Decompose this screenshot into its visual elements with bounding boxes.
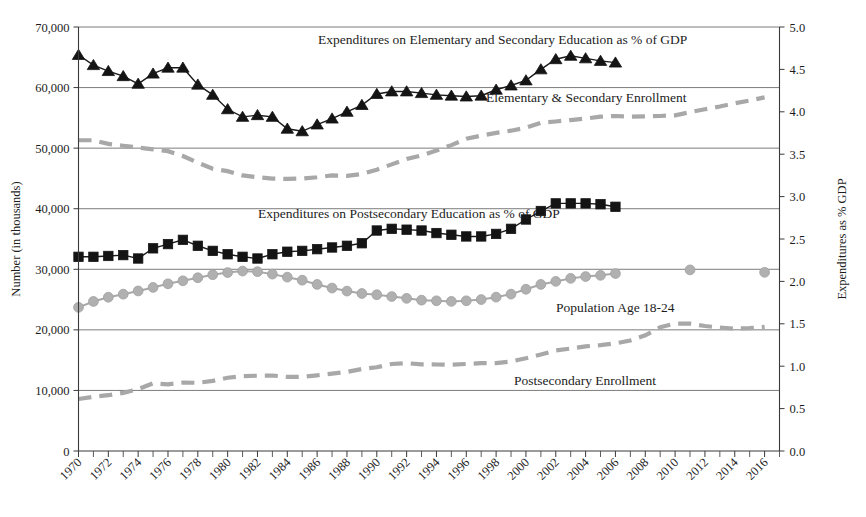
- series-0-pt-3-marker: [117, 70, 129, 80]
- series-2-pt-24-marker: [432, 228, 441, 237]
- y2-tick-label-4: 4.0: [790, 105, 806, 119]
- x-tick-label-2016: 2016: [743, 455, 771, 483]
- y-axis-tick-labels: 010,00020,00030,00040,00050,00060,00070,…: [35, 21, 69, 459]
- y2-tick-label-5: 5.0: [790, 21, 806, 35]
- series-3-pt-25-marker: [446, 296, 456, 306]
- x-tick-label-1992: 1992: [385, 455, 413, 483]
- series-2-pt-1-marker: [89, 252, 98, 261]
- series-3-pt-35-marker: [596, 270, 606, 280]
- chart-container: 1970197219741976197819801982198419861988…: [0, 0, 866, 517]
- series-3-pt-13-marker: [267, 269, 277, 279]
- x-tick-label-2002: 2002: [534, 455, 562, 483]
- x-tick-label-1972: 1972: [87, 455, 115, 483]
- x-tick-label-1976: 1976: [147, 455, 175, 483]
- y2-tick-label-0: 0.0: [790, 445, 806, 459]
- series-3-pt-16-marker: [312, 280, 322, 290]
- series-2-pt-21-marker: [387, 224, 396, 233]
- series-3-pt-17-marker: [327, 283, 337, 293]
- y-tick-label-40000: 40,000: [35, 202, 69, 216]
- series-2-pt-28-marker: [491, 229, 500, 238]
- series-3-pt-21-marker: [387, 292, 397, 302]
- y-tick-label-30000: 30,000: [35, 263, 69, 277]
- y2-axis-title: Expenditures as % GDP: [835, 178, 849, 299]
- series-3-pt-4-marker: [133, 286, 143, 296]
- series-2-pt-22-marker: [402, 225, 411, 234]
- series-3-pt-5-marker: [148, 283, 158, 293]
- y-tick-label-10000: 10,000: [35, 384, 69, 398]
- y2-tick-label-3: 3.0: [790, 190, 806, 204]
- series-3-pt-31-marker: [536, 280, 546, 290]
- series-2-pt-3-marker: [119, 250, 128, 259]
- x-tick-label-1986: 1986: [296, 455, 324, 483]
- series-3-extra-0-marker: [685, 265, 695, 275]
- series-4: [79, 324, 765, 399]
- series-2-pt-12-marker: [253, 254, 262, 263]
- x-tick-label-2008: 2008: [624, 455, 652, 483]
- x-axis-tick-labels: 1970197219741976197819801982198419861988…: [57, 455, 771, 483]
- series-2-pt-5-marker: [148, 244, 157, 253]
- series-line-1: [79, 97, 765, 179]
- series-2-pt-10-marker: [223, 250, 232, 259]
- y2-tick-label-3_5: 3.5: [790, 148, 806, 162]
- series-2-pt-23-marker: [417, 226, 426, 235]
- series-0-pt-31-marker: [535, 64, 547, 74]
- series-3-pt-15-marker: [297, 275, 307, 285]
- x-tick-label-2006: 2006: [594, 455, 622, 483]
- series-3-pt-10-marker: [223, 268, 233, 278]
- series-3-pt-12-marker: [253, 267, 263, 277]
- series-2-pt-16-marker: [312, 244, 321, 253]
- series-0-pt-12-marker: [251, 109, 263, 119]
- series-line-4: [79, 324, 765, 399]
- series-3-pt-34-marker: [581, 272, 591, 282]
- x-tick-label-1988: 1988: [326, 455, 354, 483]
- series-0-pt-1-marker: [87, 59, 99, 69]
- series-3-pt-11-marker: [238, 266, 248, 276]
- x-tick-label-2000: 2000: [504, 455, 532, 483]
- series-3-pt-19-marker: [357, 289, 367, 299]
- series-0-pt-5-marker: [147, 68, 159, 78]
- y-tick-label-0: 0: [63, 445, 69, 459]
- series-0-pt-17-marker: [326, 113, 338, 123]
- x-tick-label-1998: 1998: [475, 455, 503, 483]
- x-tick-label-2010: 2010: [654, 455, 682, 483]
- y2-tick-label-4_5: 4.5: [790, 63, 806, 77]
- y-tick-label-70000: 70,000: [35, 21, 69, 35]
- series-3-pt-24-marker: [432, 296, 442, 306]
- series-3-pt-28-marker: [491, 292, 501, 302]
- x-tick-label-1980: 1980: [206, 455, 234, 483]
- x-tick-label-1984: 1984: [266, 455, 294, 483]
- series-2-pt-29-marker: [506, 224, 515, 233]
- y2-tick-label-2: 2.0: [790, 275, 806, 289]
- series-2-pt-11-marker: [238, 252, 247, 261]
- series-3-extra-1-marker: [760, 267, 770, 277]
- y2-tick-label-1_5: 1.5: [790, 317, 806, 331]
- series-2-pt-14-marker: [283, 247, 292, 256]
- series-3-pt-1-marker: [89, 297, 99, 307]
- y-tick-label-20000: 20,000: [35, 323, 69, 337]
- series-3-pt-22-marker: [402, 293, 412, 303]
- series-0-pt-4-marker: [132, 78, 144, 88]
- series-3-pt-32-marker: [551, 277, 561, 287]
- y2-tick-label-0_5: 0.5: [790, 402, 806, 416]
- x-tick-label-1974: 1974: [117, 455, 145, 483]
- x-tick-label-1978: 1978: [176, 455, 204, 483]
- series-1: [79, 97, 765, 179]
- series-2-pt-36-marker: [611, 202, 620, 211]
- series-2-pt-9-marker: [208, 246, 217, 255]
- chart-svg: 1970197219741976197819801982198419861988…: [0, 0, 866, 517]
- series-3-pt-7-marker: [178, 276, 188, 286]
- y2-axis-tick-labels: 0.00.51.01.52.02.53.03.54.04.55.0: [790, 21, 806, 459]
- series-0-pt-9-marker: [207, 89, 219, 99]
- series-3-pt-30-marker: [521, 284, 531, 294]
- series-2-pt-27-marker: [477, 232, 486, 241]
- series-2-pt-6-marker: [163, 239, 172, 248]
- series-0-pt-33-marker: [564, 50, 576, 60]
- series-3-pt-14-marker: [282, 272, 292, 282]
- series-2-pt-4-marker: [133, 254, 142, 263]
- series-0-pt-16-marker: [311, 119, 323, 129]
- series-2-pt-35-marker: [596, 200, 605, 209]
- series-3-pt-27-marker: [476, 295, 486, 305]
- series-0-pt-30-marker: [520, 75, 532, 85]
- series-3-pt-18-marker: [342, 286, 352, 296]
- series-2-pt-34-marker: [581, 199, 590, 208]
